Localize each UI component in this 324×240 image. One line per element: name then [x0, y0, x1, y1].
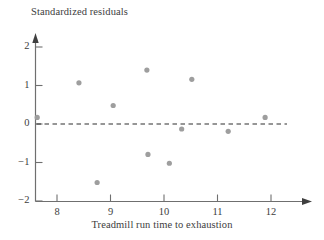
data-point [95, 180, 100, 185]
x-axis-arrowhead [302, 198, 312, 205]
data-point [144, 68, 149, 73]
axes-layer [32, 33, 312, 205]
data-point [179, 126, 184, 131]
data-points-layer [35, 68, 268, 186]
data-point [145, 152, 150, 157]
plot-canvas [0, 0, 324, 240]
y-tick-label: −1 [12, 156, 30, 167]
data-point [226, 129, 231, 134]
data-point [76, 80, 81, 85]
data-point [167, 161, 172, 166]
x-tick-label: 9 [101, 206, 121, 217]
data-point [35, 115, 40, 120]
y-tick-label: 0 [12, 117, 30, 128]
x-tick-label: 12 [261, 206, 281, 217]
y-tick-label: 1 [12, 79, 30, 90]
x-tick-label: 11 [208, 206, 228, 217]
y-axis-arrowhead [32, 33, 38, 43]
y-tick-label: −2 [12, 194, 30, 205]
data-point [111, 103, 116, 108]
x-tick-label: 10 [154, 206, 174, 217]
residual-plot-figure: Standardized residuals Treadmill run tim… [0, 0, 324, 240]
y-axis-title: Standardized residuals [31, 6, 128, 17]
x-tick-label: 8 [47, 206, 67, 217]
data-point [263, 115, 268, 120]
x-axis-title: Treadmill run time to exhaustion [0, 219, 324, 230]
y-tick-label: 2 [12, 40, 30, 51]
data-point [189, 77, 194, 82]
